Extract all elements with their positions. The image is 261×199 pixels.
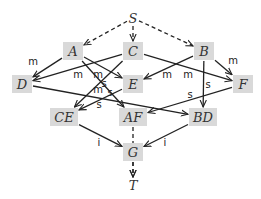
node-label: F — [237, 77, 248, 92]
node-a: A — [63, 42, 83, 60]
edge-label: i — [98, 137, 101, 148]
node-label: CE — [54, 110, 74, 125]
node-label: D — [16, 77, 28, 92]
node-g: G — [123, 143, 143, 161]
edge-label: m — [73, 69, 83, 80]
edge-s-b — [139, 21, 193, 46]
node-label: G — [128, 145, 138, 160]
node-t: T — [129, 178, 139, 193]
node-label: A — [67, 44, 77, 59]
edge-label: m — [93, 84, 103, 95]
node-label: AF — [123, 110, 143, 125]
edge-label: m — [162, 69, 172, 80]
edge-label: m — [183, 69, 193, 80]
node-label: T — [129, 178, 139, 193]
edge-label: i — [164, 137, 167, 148]
node-d: D — [12, 75, 32, 93]
node-s: S — [129, 11, 138, 26]
node-ce: CE — [50, 108, 78, 126]
edge-ce-g — [79, 125, 122, 147]
edge-label: s — [205, 79, 210, 90]
edge-label: m — [228, 55, 238, 66]
node-label: B — [198, 44, 209, 59]
node-label: C — [128, 44, 138, 59]
edge-label: m — [28, 56, 38, 67]
edge-b-bd — [203, 61, 204, 107]
node-c: C — [123, 42, 143, 60]
node-af: AF — [119, 108, 147, 126]
node-e: E — [123, 75, 143, 93]
edge-s-a — [84, 21, 127, 45]
lattice-diagram: SACBDEFCEAFBDGT mmmsmsmmmsssii — [0, 0, 261, 199]
node-b: B — [194, 42, 214, 60]
node-f: F — [233, 75, 253, 93]
node-label: S — [129, 11, 138, 26]
node-label: BD — [192, 110, 214, 125]
edge-label: s — [187, 89, 192, 100]
edge-label: s — [107, 87, 112, 98]
node-label: E — [127, 77, 138, 92]
edge-label: s — [96, 99, 101, 110]
node-bd: BD — [189, 108, 217, 126]
